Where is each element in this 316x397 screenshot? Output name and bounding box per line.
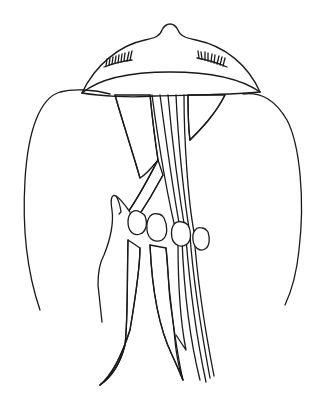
lined-strand-lower xyxy=(176,234,214,382)
right-lash-icon xyxy=(197,51,227,67)
right-shoulder xyxy=(243,94,302,305)
braiding-illustration xyxy=(0,0,316,397)
dotted-strand xyxy=(115,95,158,178)
left-shoulder xyxy=(24,90,110,310)
head xyxy=(82,24,260,97)
chevron-strand-upper xyxy=(188,95,225,140)
